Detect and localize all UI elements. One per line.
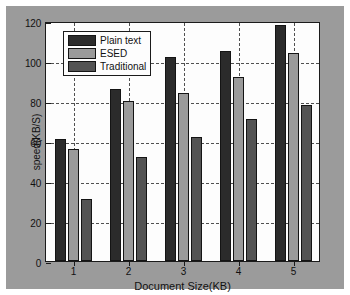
- x-axis-tick-label: 5: [291, 266, 297, 277]
- y-axis-tick-label: 120: [25, 18, 41, 29]
- x-axis-tick-label: 1: [71, 266, 77, 277]
- bar-traditional-group-1: [81, 199, 93, 261]
- legend-swatch-icon: [68, 35, 96, 46]
- y-axis-tick-mark: [46, 223, 51, 224]
- bar-plain-text-group-1: [55, 139, 67, 261]
- bar-esed-group-4: [233, 77, 245, 261]
- y-axis-tick-mark: [46, 143, 51, 144]
- x-axis-tick-label: 2: [126, 266, 132, 277]
- legend-swatch-icon: [68, 48, 96, 59]
- bar-esed-group-1: [68, 149, 80, 261]
- legend-item: Plain text: [68, 35, 146, 46]
- x-axis-tick-label: 3: [181, 266, 187, 277]
- y-axis-tick-mark: [46, 23, 51, 24]
- y-axis-title: speed(KB/S): [31, 114, 42, 171]
- bar-traditional-group-5: [301, 105, 313, 261]
- y-axis-tick-mark: [46, 103, 51, 104]
- y-axis-tick-mark: [46, 63, 51, 64]
- bar-plain-text-group-2: [110, 89, 122, 261]
- y-axis-tick-label: 20: [30, 218, 41, 229]
- y-axis-tick-label: 80: [30, 98, 41, 109]
- bar-esed-group-5: [288, 53, 300, 261]
- legend-label: ESED: [100, 48, 127, 59]
- y-axis-tick-mark: [46, 263, 51, 264]
- y-axis-tick-label: 100: [25, 58, 41, 69]
- legend-label: Traditional: [100, 61, 146, 72]
- y-axis-tick-label: 0: [36, 258, 41, 269]
- bar-plain-text-group-5: [275, 25, 287, 261]
- legend-item: ESED: [68, 48, 146, 59]
- bar-traditional-group-4: [246, 119, 258, 261]
- bar-plain-text-group-3: [165, 57, 177, 261]
- bar-esed-group-3: [178, 93, 190, 261]
- bar-plain-text-group-4: [220, 51, 232, 261]
- y-axis-tick-mark: [46, 183, 51, 184]
- bar-traditional-group-3: [191, 137, 203, 261]
- y-axis-tick-label: 40: [30, 178, 41, 189]
- plot-area: Plain textESEDTraditional 02040608010012…: [45, 22, 320, 262]
- x-axis-title: Document Size(KB): [134, 280, 231, 292]
- figure-background: Plain textESEDTraditional 02040608010012…: [6, 6, 344, 289]
- legend-swatch-icon: [68, 61, 96, 72]
- bar-esed-group-2: [123, 101, 135, 261]
- chart-legend: Plain textESEDTraditional: [63, 31, 151, 76]
- bar-traditional-group-2: [136, 157, 148, 261]
- legend-label: Plain text: [100, 35, 141, 46]
- x-axis-tick-label: 4: [236, 266, 242, 277]
- legend-item: Traditional: [68, 61, 146, 72]
